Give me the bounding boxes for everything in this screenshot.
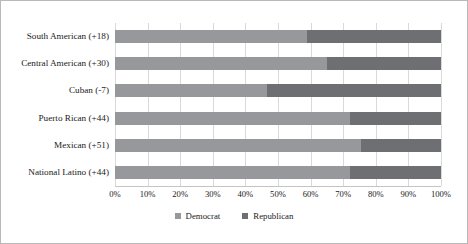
bar-segment-democrat	[115, 57, 327, 70]
bar-row	[115, 57, 441, 70]
bar-segment-democrat	[115, 166, 350, 179]
x-tick-label: 50%	[270, 189, 286, 199]
category-label: Puerto Rican (+44)	[1, 112, 109, 125]
x-tick-label: 70%	[335, 189, 351, 199]
category-label: South American (+18)	[1, 30, 109, 43]
bar-segment-republican	[350, 112, 441, 125]
x-tick-label: 80%	[368, 189, 384, 199]
bar-row	[115, 84, 441, 97]
bar-segment-republican	[307, 30, 441, 43]
bar-segment-democrat	[115, 30, 307, 43]
legend-label: Republican	[253, 211, 293, 221]
bar-segment-republican	[327, 57, 441, 70]
category-label: National Latino (+44)	[1, 166, 109, 179]
bar-segment-democrat	[115, 139, 361, 152]
bar-row	[115, 30, 441, 43]
category-label: Cuban (-7)	[1, 84, 109, 97]
x-tick-label: 10%	[140, 189, 156, 199]
chart-legend: DemocratRepublican	[1, 211, 467, 221]
category-label: Central American (+30)	[1, 57, 109, 70]
bar-segment-democrat	[115, 84, 267, 97]
x-tick-label: 60%	[303, 189, 319, 199]
chart-figure: South American (+18)Central American (+3…	[0, 0, 468, 244]
x-tick-label: 100%	[431, 189, 451, 199]
bar-row	[115, 166, 441, 179]
legend-item: Republican	[242, 211, 293, 221]
category-axis-labels: South American (+18)Central American (+3…	[1, 23, 109, 186]
x-tick-label: 30%	[205, 189, 221, 199]
legend-label: Democrat	[186, 211, 221, 221]
category-label: Mexican (+51)	[1, 139, 109, 152]
bar-segment-republican	[350, 166, 441, 179]
x-tick-label: 90%	[401, 189, 417, 199]
bar-segment-republican	[267, 84, 441, 97]
x-axis-tick-labels: 0%10%20%30%40%50%60%70%80%90%100%	[115, 189, 441, 203]
legend-swatch-icon	[175, 213, 181, 219]
stacked-bars	[115, 23, 441, 186]
legend-swatch-icon	[242, 213, 248, 219]
bar-row	[115, 139, 441, 152]
x-axis-line	[115, 186, 441, 187]
plot-area	[115, 23, 441, 186]
x-tick-label: 40%	[238, 189, 254, 199]
x-tick-label: 0%	[109, 189, 120, 199]
legend-item: Democrat	[175, 211, 221, 221]
bar-segment-democrat	[115, 112, 350, 125]
bar-segment-republican	[361, 139, 441, 152]
x-tick-label: 20%	[172, 189, 188, 199]
bar-row	[115, 112, 441, 125]
gridline-100	[441, 23, 442, 186]
